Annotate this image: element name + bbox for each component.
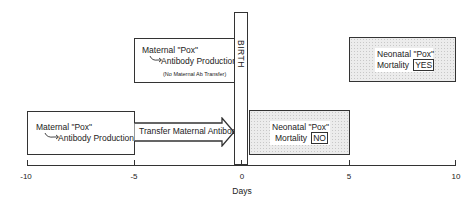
neonatal-yes-box: Neonatal "Pox" MortalityYES xyxy=(349,37,456,82)
tick-label: -5 xyxy=(130,172,137,181)
hook-arrow-icon xyxy=(149,55,163,63)
tick-label: 10 xyxy=(452,172,461,181)
yes-tag: YES xyxy=(413,59,434,71)
neonatal-yes-line2-wrap: MortalityYES xyxy=(377,60,434,71)
maternal-line2: Antibody Production xyxy=(58,133,134,144)
tick-mark xyxy=(134,160,135,165)
neonatal-no-box: Neonatal "Pox" MortalityNO xyxy=(249,110,350,155)
x-axis xyxy=(27,165,456,166)
tick-mark xyxy=(455,160,456,165)
maternal-no-transfer-box: Maternal "Pox" Antibody Production (No M… xyxy=(134,38,235,83)
tick-mark xyxy=(349,160,350,165)
birth-marker: BIRTH xyxy=(234,12,248,165)
transfer-label: Transfer Maternal Antibody xyxy=(139,126,241,137)
neonatal-yes-line2: Mortality xyxy=(377,60,409,70)
neonatal-no-line2-wrap: MortalityNO xyxy=(275,133,328,144)
hook-arrow-icon xyxy=(44,132,60,140)
tick-label: -10 xyxy=(20,172,32,181)
tick-mark xyxy=(241,160,242,165)
tick-label: 0 xyxy=(240,172,244,181)
birth-label: BIRTH xyxy=(236,40,246,68)
no-tag: NO xyxy=(311,132,328,144)
no-transfer-line2: Antibody Production xyxy=(161,56,237,67)
no-transfer-note: (No Maternal Ab Transfer) xyxy=(163,69,226,80)
tick-mark xyxy=(27,160,28,165)
axis-title: Days xyxy=(232,186,251,196)
neonatal-no-line2: Mortality xyxy=(275,133,307,143)
tick-label: 5 xyxy=(347,172,351,181)
maternal-antibody-box: Maternal "Pox" Antibody Production xyxy=(27,111,135,155)
